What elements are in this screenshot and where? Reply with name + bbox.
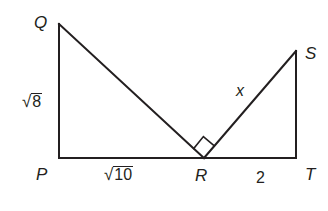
point-label-s: S <box>305 45 316 62</box>
point-label-r: R <box>195 167 207 184</box>
radicand-pr: 10 <box>113 166 133 184</box>
point-label-q: Q <box>34 14 47 31</box>
segment-qr <box>59 24 204 158</box>
length-label-rt: 2 <box>256 170 265 186</box>
length-label-rs: x <box>236 83 244 99</box>
geometry-diagram <box>0 0 328 211</box>
length-label-pr: √10 <box>104 166 133 184</box>
point-label-t: T <box>305 166 315 183</box>
radicand-qp: 8 <box>31 93 42 111</box>
radical-icon: √ <box>22 92 31 111</box>
segment-rs <box>204 51 296 158</box>
length-label-qp: √8 <box>22 93 42 111</box>
point-label-p: P <box>36 166 47 183</box>
radical-icon: √ <box>104 165 113 184</box>
right-angle-marker <box>194 137 215 149</box>
